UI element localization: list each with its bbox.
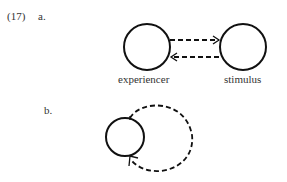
diagram-canvas — [0, 0, 287, 182]
self-node — [106, 118, 144, 156]
stimulus-label: stimulus — [224, 73, 261, 85]
experiencer-node — [124, 24, 170, 70]
arrow-stimulus-to-experiencer — [171, 53, 219, 61]
experiencer-label: experiencer — [118, 73, 169, 85]
stimulus-node — [220, 24, 266, 70]
self-loop-arrow — [129, 105, 192, 171]
arrow-experiencer-to-stimulus — [170, 36, 219, 44]
